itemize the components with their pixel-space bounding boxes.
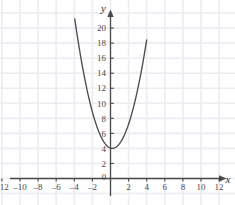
x-tick-label: –8 (33, 182, 44, 192)
x-tick-label: –6 (51, 182, 62, 192)
x-tick-label: –4 (69, 182, 80, 192)
origin-label: 0 (102, 172, 107, 182)
x-axis-name-label: x (225, 173, 231, 185)
graph-canvas: –12–10–8–6–4–20246810122468101214161820 … (0, 0, 235, 205)
x-tick-label: 10 (197, 182, 207, 192)
grid-lines (0, 0, 235, 205)
y-tick-label: 18 (97, 38, 107, 48)
y-tick-label: 10 (97, 99, 107, 109)
parabola-graph-figure: –12–10–8–6–4–20246810122468101214161820 … (0, 0, 235, 205)
x-tick-label: 6 (163, 182, 168, 192)
y-tick-label: 20 (97, 23, 107, 33)
y-tick-label: 2 (102, 159, 107, 169)
x-tick-label: –10 (12, 182, 27, 192)
y-tick-label: 16 (97, 53, 107, 63)
tick-labels: –12–10–8–6–4–20246810122468101214161820 (0, 23, 224, 192)
y-tick-label: 8 (102, 114, 107, 124)
y-tick-label: 12 (97, 83, 106, 93)
y-tick-label: 6 (102, 129, 107, 139)
y-axis-name-label: y (100, 2, 106, 14)
x-tick-label: 8 (181, 182, 186, 192)
x-tick-label: –2 (87, 182, 97, 192)
x-tick-label: 2 (126, 182, 131, 192)
x-tick-label: 4 (144, 182, 149, 192)
x-tick-label: –12 (0, 182, 9, 192)
y-tick-label: 14 (97, 68, 107, 78)
x-tick-label: 12 (215, 182, 224, 192)
